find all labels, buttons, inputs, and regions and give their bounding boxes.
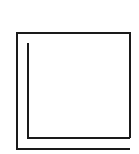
inner-corner-line xyxy=(28,43,130,138)
outer-frame xyxy=(17,33,130,149)
diagram-canvas xyxy=(0,0,139,154)
nested-square-icon xyxy=(0,0,139,154)
